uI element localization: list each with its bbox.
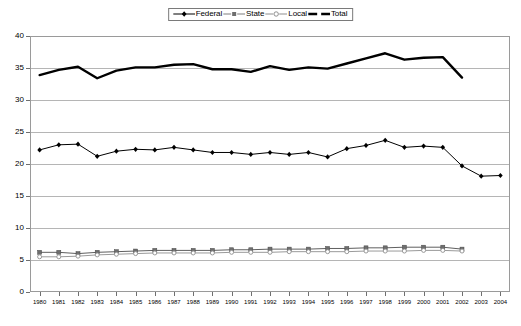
- y-tick-mark: [26, 196, 30, 197]
- legend-entry-state: State: [223, 10, 265, 18]
- x-tick-label: 1994: [298, 299, 318, 305]
- x-tick-mark: [443, 292, 444, 296]
- legend-label-state: State: [245, 10, 265, 18]
- x-tick-label: 1981: [49, 299, 69, 305]
- legend-label-federal: Federal: [195, 10, 223, 18]
- gridline: [31, 132, 509, 133]
- y-tick-label: 10: [2, 224, 24, 232]
- gridline: [31, 68, 509, 69]
- x-tick-mark: [40, 292, 41, 296]
- x-tick-mark: [155, 292, 156, 296]
- y-tick-mark: [26, 260, 30, 261]
- legend-label-local: Local: [287, 10, 308, 18]
- x-tick-mark: [366, 292, 367, 296]
- x-tick-mark: [78, 292, 79, 296]
- y-tick-mark: [26, 164, 30, 165]
- x-tick-mark: [481, 292, 482, 296]
- y-tick-label: 40: [2, 32, 24, 40]
- x-tick-label: 1987: [164, 299, 184, 305]
- legend-entry-total: Total: [308, 10, 348, 18]
- x-tick-mark: [232, 292, 233, 296]
- x-tick-label: 1984: [106, 299, 126, 305]
- x-tick-label: 1996: [337, 299, 357, 305]
- y-tick-mark: [26, 228, 30, 229]
- x-tick-label: 2001: [433, 299, 453, 305]
- x-tick-label: 2002: [452, 299, 472, 305]
- x-tick-mark: [193, 292, 194, 296]
- x-tick-mark: [424, 292, 425, 296]
- x-tick-mark: [270, 292, 271, 296]
- y-tick-label: 0: [2, 288, 24, 296]
- y-tick-mark: [26, 100, 30, 101]
- x-tick-label: 1986: [145, 299, 165, 305]
- x-tick-mark: [136, 292, 137, 296]
- x-tick-mark: [251, 292, 252, 296]
- x-tick-mark: [462, 292, 463, 296]
- x-tick-mark: [212, 292, 213, 296]
- legend-entry-local: Local: [265, 10, 308, 18]
- x-tick-label: 1985: [126, 299, 146, 305]
- x-tick-label: 1991: [241, 299, 261, 305]
- x-tick-label: 2003: [471, 299, 491, 305]
- y-tick-label: 25: [2, 128, 24, 136]
- gridline: [31, 228, 509, 229]
- x-tick-label: 1989: [202, 299, 222, 305]
- x-tick-mark: [500, 292, 501, 296]
- x-tick-mark: [59, 292, 60, 296]
- x-tick-label: 1982: [68, 299, 88, 305]
- line-chart: Federal State Local: [0, 0, 521, 326]
- x-tick-label: 2004: [490, 299, 510, 305]
- legend-label-total: Total: [330, 10, 348, 18]
- x-tick-mark: [404, 292, 405, 296]
- x-tick-label: 1999: [394, 299, 414, 305]
- chart-legend: Federal State Local: [168, 8, 354, 21]
- gridline: [31, 100, 509, 101]
- y-tick-label: 15: [2, 192, 24, 200]
- x-tick-label: 1998: [375, 299, 395, 305]
- x-tick-label: 1997: [356, 299, 376, 305]
- diamond-marker-icon: [173, 9, 195, 19]
- circle-marker-icon: [265, 9, 287, 19]
- x-tick-label: 1988: [183, 299, 203, 305]
- legend-entry-federal: Federal: [173, 10, 223, 18]
- y-tick-label: 5: [2, 256, 24, 264]
- x-tick-mark: [385, 292, 386, 296]
- x-tick-mark: [97, 292, 98, 296]
- gridline: [31, 36, 509, 37]
- x-tick-mark: [289, 292, 290, 296]
- x-tick-label: 1983: [87, 299, 107, 305]
- x-tick-label: 1980: [30, 299, 50, 305]
- x-tick-mark: [308, 292, 309, 296]
- plot-area: [30, 36, 510, 292]
- y-tick-label: 20: [2, 160, 24, 168]
- y-tick-label: 30: [2, 96, 24, 104]
- y-tick-mark: [26, 292, 30, 293]
- y-tick-mark: [26, 132, 30, 133]
- x-tick-mark: [328, 292, 329, 296]
- x-tick-mark: [174, 292, 175, 296]
- gridline: [31, 164, 509, 165]
- gridline: [31, 196, 509, 197]
- gridline: [31, 260, 509, 261]
- x-tick-mark: [347, 292, 348, 296]
- x-tick-mark: [116, 292, 117, 296]
- thick-line-marker-icon: [308, 9, 330, 19]
- y-tick-mark: [26, 68, 30, 69]
- x-tick-label: 1993: [279, 299, 299, 305]
- y-tick-mark: [26, 36, 30, 37]
- square-marker-icon: [223, 9, 245, 19]
- x-tick-label: 1995: [318, 299, 338, 305]
- x-tick-label: 1992: [260, 299, 280, 305]
- x-tick-label: 2000: [414, 299, 434, 305]
- x-tick-label: 1990: [222, 299, 242, 305]
- y-tick-label: 35: [2, 64, 24, 72]
